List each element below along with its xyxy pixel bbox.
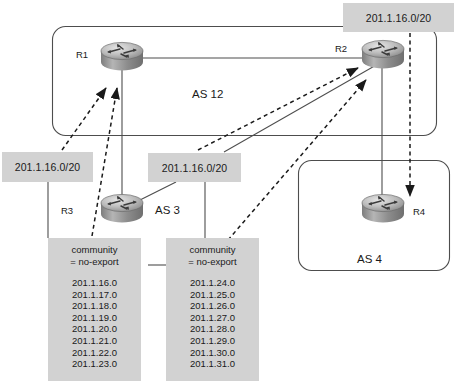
route-label-left: 201.1.16.0/20 — [2, 152, 93, 182]
community-left-line2: = no-export — [48, 256, 141, 268]
router-label-r4: R4 — [413, 206, 425, 217]
community-right-prefix-list: 201.1.24.0 201.1.25.0 201.1.26.0 201.1.2… — [166, 277, 259, 370]
community-box-right: community = no-export 201.1.24.0 201.1.2… — [166, 238, 259, 381]
prefix-item: 201.1.27.0 — [166, 312, 259, 324]
prefix-item: 201.1.16.0 — [48, 277, 141, 289]
prefix-item: 201.1.30.0 — [166, 347, 259, 359]
as3-label: AS 3 — [155, 204, 180, 216]
as12-label: AS 12 — [192, 88, 223, 100]
dashed-left-label-to-r1 — [62, 88, 106, 150]
prefix-item: 201.1.25.0 — [166, 289, 259, 301]
prefix-item: 201.1.18.0 — [48, 300, 141, 312]
prefix-item: 201.1.19.0 — [48, 312, 141, 324]
community-left-prefix-list: 201.1.16.0 201.1.17.0 201.1.18.0 201.1.1… — [48, 277, 141, 370]
dashed-middle-label-to-r2 — [198, 68, 358, 150]
prefix-item: 201.1.22.0 — [48, 347, 141, 359]
prefix-item: 201.1.26.0 — [166, 300, 259, 312]
link-r3-r2 — [224, 64, 378, 152]
router-label-r1: R1 — [76, 49, 88, 60]
community-right-line2: = no-export — [166, 256, 259, 268]
router-label-r2: R2 — [335, 43, 347, 54]
router-r2[interactable] — [360, 38, 406, 70]
prefix-item: 201.1.28.0 — [166, 323, 259, 335]
router-r4[interactable] — [360, 192, 406, 224]
leader-middle-label-r3 — [140, 182, 176, 200]
as4-label: AS 4 — [357, 253, 382, 265]
community-box-left: community = no-export 201.1.16.0 201.1.1… — [48, 238, 141, 381]
network-diagram: R1 R2 R3 R4 AS 12 AS 3 AS 4 201.1.16.0/2… — [0, 0, 454, 385]
community-left-line1: community — [48, 244, 141, 256]
route-label-middle: 201.1.16.0/20 — [148, 153, 241, 182]
router-label-r3: R3 — [61, 205, 73, 216]
prefix-item: 201.1.24.0 — [166, 277, 259, 289]
prefix-item: 201.1.17.0 — [48, 289, 141, 301]
prefix-item: 201.1.20.0 — [48, 323, 141, 335]
router-r3[interactable] — [99, 192, 145, 224]
route-label-top-right: 201.1.16.0/20 — [343, 3, 454, 32]
community-right-line1: community — [166, 244, 259, 256]
prefix-item: 201.1.31.0 — [166, 358, 259, 370]
prefix-item: 201.1.29.0 — [166, 335, 259, 347]
prefix-item: 201.1.23.0 — [48, 358, 141, 370]
prefix-item: 201.1.21.0 — [48, 335, 141, 347]
router-r1[interactable] — [99, 40, 145, 72]
